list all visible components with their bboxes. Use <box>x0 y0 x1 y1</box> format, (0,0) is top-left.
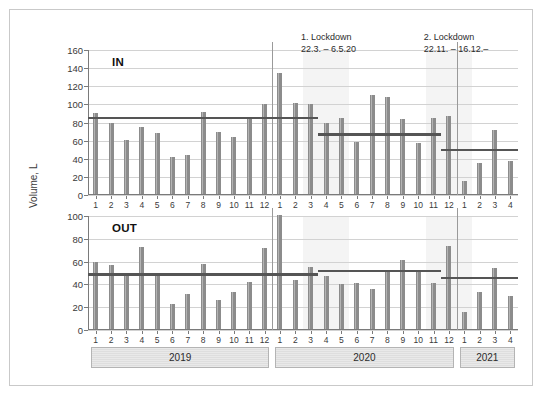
bar <box>370 289 375 330</box>
x-tick-label: 9 <box>400 335 405 345</box>
annotation-dates: 22.11. – 16.12.– <box>424 44 488 56</box>
y-tick-label: 20 <box>72 171 83 182</box>
x-tick-label: 12 <box>444 200 453 210</box>
gridline <box>88 159 518 160</box>
x-tick-label: 3 <box>124 335 129 345</box>
bar <box>354 283 359 330</box>
x-tick-mark <box>234 196 235 199</box>
x-tick-mark <box>249 196 250 199</box>
bar <box>400 119 405 195</box>
bar <box>124 274 129 330</box>
x-tick-mark <box>188 196 189 199</box>
x-tick-label: 4 <box>139 335 144 345</box>
x-tick-mark <box>341 196 342 199</box>
x-tick-label: 10 <box>229 200 238 210</box>
year-separator <box>457 208 458 330</box>
x-tick-mark <box>434 331 435 334</box>
x-tick-mark <box>480 196 481 199</box>
y-axis <box>88 50 89 195</box>
x-tick-mark <box>403 196 404 199</box>
x-tick-mark <box>510 196 511 199</box>
bar <box>477 292 482 330</box>
x-tick-label: 8 <box>385 335 390 345</box>
x-axis <box>88 329 518 330</box>
bar <box>339 284 344 330</box>
x-tick-label: 6 <box>354 335 359 345</box>
x-tick-mark <box>311 331 312 334</box>
x-tick-label: 2 <box>109 335 114 345</box>
chart-frame: Volume, L IN 020406080100120140160 12345… <box>9 9 533 386</box>
x-tick-label: 5 <box>339 335 344 345</box>
x-tick-label: 7 <box>370 200 375 210</box>
gridline <box>88 307 518 308</box>
bar <box>231 292 236 330</box>
gridline <box>88 141 518 142</box>
year-band-2019: 2019 <box>91 347 269 368</box>
bar <box>231 137 236 195</box>
x-tick-label: 6 <box>354 200 359 210</box>
x-tick-label: 5 <box>339 200 344 210</box>
x-tick-label: 4 <box>508 200 513 210</box>
y-tick-label: 60 <box>72 256 83 267</box>
bar <box>155 133 160 195</box>
x-tick-label: 6 <box>170 335 175 345</box>
y-axis-title: Volume, L <box>28 164 39 208</box>
bar <box>431 283 436 330</box>
average-line <box>441 277 518 280</box>
x-tick-label: 11 <box>245 335 254 345</box>
y-tick-label: 120 <box>67 81 83 92</box>
panel-label-out: OUT <box>112 222 137 234</box>
bar <box>201 112 206 195</box>
bar <box>247 282 252 330</box>
gridline <box>88 216 518 217</box>
bar <box>492 130 497 195</box>
gridline <box>88 239 518 240</box>
bar <box>155 274 160 330</box>
x-tick-label: 7 <box>370 335 375 345</box>
average-line <box>441 149 518 152</box>
x-tick-mark <box>280 331 281 334</box>
gridline <box>88 262 518 263</box>
x-tick-mark <box>142 196 143 199</box>
x-tick-label: 12 <box>444 335 453 345</box>
x-tick-mark <box>326 331 327 334</box>
x-tick-mark <box>188 331 189 334</box>
x-tick-mark <box>249 331 250 334</box>
y-tick-label: 40 <box>72 153 83 164</box>
x-tick-mark <box>418 196 419 199</box>
x-tick-mark <box>219 331 220 334</box>
x-tick-mark <box>449 331 450 334</box>
y-tick-label: 100 <box>67 99 83 110</box>
x-tick-mark <box>157 331 158 334</box>
x-tick-mark <box>418 331 419 334</box>
bar <box>416 271 421 330</box>
x-tick-mark <box>372 331 373 334</box>
x-tick-label: 5 <box>155 335 160 345</box>
x-tick-label: 4 <box>324 200 329 210</box>
y-tick-label: 40 <box>72 279 83 290</box>
average-line <box>88 117 318 120</box>
bar <box>262 248 267 330</box>
bar <box>170 157 175 195</box>
y-tick-label: 100 <box>67 211 83 222</box>
x-tick-label: 4 <box>508 335 513 345</box>
bar <box>416 143 421 195</box>
x-tick-label: 8 <box>201 335 206 345</box>
bar <box>277 73 282 195</box>
x-tick-mark <box>126 196 127 199</box>
average-line <box>88 273 318 276</box>
bar <box>93 113 98 195</box>
bar <box>477 163 482 195</box>
bar <box>185 294 190 330</box>
x-tick-label: 2 <box>293 200 298 210</box>
x-tick-label: 3 <box>124 200 129 210</box>
x-tick-mark <box>341 331 342 334</box>
y-tick-label: 20 <box>72 302 83 313</box>
x-tick-mark <box>311 196 312 199</box>
annotation-title: 1. Lockdown <box>301 32 356 44</box>
x-tick-mark <box>157 196 158 199</box>
x-tick-mark <box>434 196 435 199</box>
y-tick-label: 80 <box>72 117 83 128</box>
x-tick-mark <box>234 331 235 334</box>
y-tick-label: 140 <box>67 63 83 74</box>
